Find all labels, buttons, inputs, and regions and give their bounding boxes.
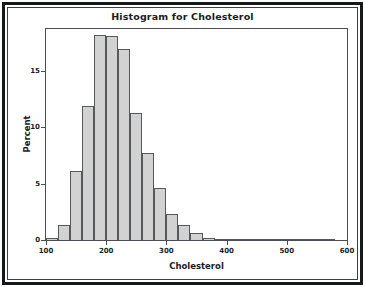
histogram-bar [215,239,227,240]
x-axis-tick [227,241,228,245]
histogram-bar [263,239,275,240]
histogram-bar [287,239,299,240]
y-axis-tick-label: 5 [35,180,40,188]
histogram-bar [299,239,311,240]
y-axis-tick [41,71,45,72]
histogram-bar [130,113,142,241]
x-axis-tick-label: 200 [99,247,114,255]
y-axis-tick [41,184,45,185]
histogram-bar [46,238,58,240]
x-axis-title: Cholesterol [45,261,348,271]
x-axis-tick [166,241,167,245]
y-axis-tick-label: 0 [35,236,40,244]
histogram-bar [323,239,335,240]
histogram-bar [58,225,70,240]
x-axis-tick [106,241,107,245]
x-axis-tick-label: 600 [340,247,355,255]
x-axis-tick-label: 300 [159,247,174,255]
y-axis-tick [41,240,45,241]
histogram-bars [46,29,347,240]
x-axis-tick [287,241,288,245]
histogram-bar [178,225,190,240]
histogram-bar [82,106,94,240]
histogram-bar [275,239,287,240]
histogram-bar [106,36,118,240]
x-axis-tick-label: 100 [39,247,54,255]
y-axis-tick-label: 15 [30,67,40,75]
histogram-bar [166,214,178,240]
y-axis-tick-label: 10 [30,123,40,131]
x-axis-tick-label: 500 [279,247,294,255]
y-axis-tick [41,127,45,128]
histogram-bar [142,153,154,240]
y-axis-title: Percent [22,115,32,152]
histogram-bar [227,239,239,240]
histogram-bar [239,239,251,240]
x-axis-tick [347,241,348,245]
histogram-figure: Histogram for Cholesterol 10020030040050… [0,0,365,287]
histogram-bar [94,35,106,240]
chart-title: Histogram for Cholesterol [0,11,365,22]
histogram-bar [70,171,82,240]
histogram-bar [251,239,263,240]
histogram-bar [311,239,323,240]
histogram-bar [118,49,130,240]
x-axis-tick [46,241,47,245]
x-axis-tick-label: 400 [219,247,234,255]
histogram-bar [190,233,202,240]
histogram-bar [203,238,215,240]
histogram-bar [154,188,166,240]
